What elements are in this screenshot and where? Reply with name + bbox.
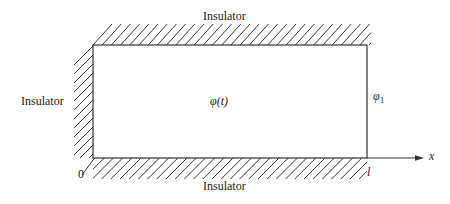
domain-rectangle (93, 45, 367, 158)
top-insulator-hatching: (function(){ const g = document.currentS… (93, 24, 416, 45)
bottom-insulator-hatching: (function(){ const g = document.currentS… (74, 158, 389, 179)
origin-label: 0 (78, 168, 84, 180)
x-axis-label: x (429, 150, 434, 162)
diagram-canvas: (function(){ const g = document.currentS… (0, 0, 450, 204)
center-potential-label: φ(t) (210, 95, 228, 107)
left-insulator-hatching: (function(){ const g = document.currentS… (74, 45, 94, 200)
right-boundary-label: φ1 (373, 90, 384, 105)
right-boundary-symbol: φ (373, 89, 380, 103)
bottom-insulator-label: Insulator (203, 180, 246, 192)
left-insulator-label: Insulator (21, 95, 64, 107)
x-axis-arrowhead (415, 155, 424, 160)
length-label: l (367, 166, 370, 178)
right-boundary-subscript: 1 (380, 95, 385, 105)
top-insulator-label: Insulator (203, 10, 246, 22)
